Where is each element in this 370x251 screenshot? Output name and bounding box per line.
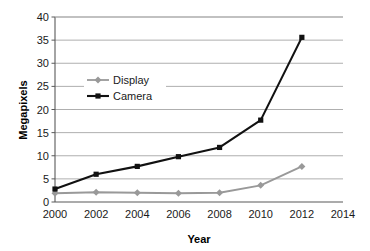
y-tick-label: 20: [37, 104, 49, 116]
x-axis-title: Year: [187, 233, 211, 245]
chart-container: 0510152025303540 20002002200420062008201…: [0, 0, 370, 251]
data-point-marker: [94, 172, 99, 177]
megapixels-line-chart: 0510152025303540 20002002200420062008201…: [0, 0, 370, 251]
y-tick-label: 35: [37, 34, 49, 46]
data-point-marker: [135, 164, 140, 169]
data-point-marker: [217, 145, 222, 150]
x-tick-label: 2002: [84, 208, 108, 220]
data-point-marker: [176, 154, 181, 159]
x-tick-label: 2010: [248, 208, 272, 220]
y-tick-label: 25: [37, 80, 49, 92]
data-point-marker: [52, 186, 57, 191]
legend-label: Display: [113, 74, 150, 86]
x-tick-label: 2004: [125, 208, 149, 220]
x-tick-label: 2008: [207, 208, 231, 220]
legend-label: Camera: [113, 90, 153, 102]
x-tick-label: 2000: [43, 208, 67, 220]
y-tick-label: 10: [37, 150, 49, 162]
y-tick-label: 5: [43, 173, 49, 185]
data-point-marker: [95, 93, 100, 98]
y-tick-label: 40: [37, 11, 49, 23]
y-tick-label: 15: [37, 127, 49, 139]
x-tick-label: 2006: [166, 208, 190, 220]
y-tick-label: 0: [43, 196, 49, 208]
x-tick-label: 2014: [331, 208, 355, 220]
y-axis-title: Megapixels: [17, 80, 29, 139]
data-point-marker: [258, 118, 263, 123]
y-tick-label: 30: [37, 57, 49, 69]
data-point-marker: [299, 35, 304, 40]
x-tick-label: 2012: [290, 208, 314, 220]
legend: DisplayCamera: [84, 72, 166, 104]
